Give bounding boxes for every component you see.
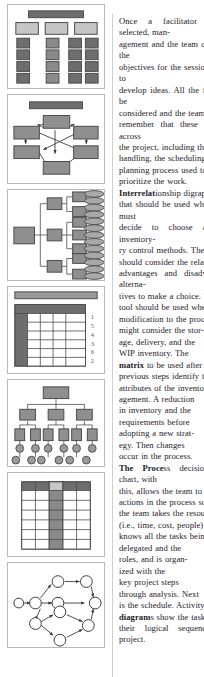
- body-text-line: in inventory and the: [119, 405, 204, 416]
- body-text-line: age, delivery, and the: [119, 337, 204, 348]
- body-text-line: egy. Then changes: [119, 440, 204, 451]
- body-text-line: the project, including the material: [119, 142, 204, 153]
- body-text-line: roles, and is organ-: [119, 554, 204, 565]
- work-breakdown-structure-canvas: [8, 380, 104, 466]
- organization-chart-grid-canvas: [8, 5, 104, 88]
- body-text-line: agement and the team can establish the: [119, 39, 204, 62]
- body-text-line: should consider the relative: [119, 257, 204, 268]
- body-text-line: agement. A reduction: [119, 394, 204, 405]
- figure-panel-tree-breakdown-diagram: [7, 189, 105, 281]
- body-text-line: this, allows the team to plan the: [119, 486, 204, 497]
- body-text-line: handling, the scheduling, and the: [119, 153, 204, 164]
- body-text-line: ized with the: [119, 566, 204, 577]
- body-text-term: matrix: [119, 360, 144, 370]
- figure-strip: 1 5 4 3 6 2: [0, 0, 110, 677]
- body-text-line: key project steps: [119, 577, 204, 588]
- figure-panel-responsibility-matrix: [7, 472, 105, 557]
- body-text-line: their logical sequence in the project.: [119, 623, 204, 646]
- body-text-line: considered and the team needs to: [119, 108, 204, 119]
- body-text-line: objectives for the session and begin to: [119, 62, 204, 85]
- body-text-line: decide to choose among the inventory-: [119, 222, 204, 245]
- body-text-line: ry control methods. The team: [119, 245, 204, 256]
- body-text-line: might consider the stor-: [119, 325, 204, 336]
- body-text-line: Interrelationship digraphs are tools: [119, 188, 204, 199]
- rank-value: 4: [91, 331, 95, 338]
- body-text-line: through analysis. Next: [119, 589, 204, 600]
- body-text-line: tives to make a choice. The: [119, 291, 204, 302]
- body-text-line: advantages and disadvantages of alterna-: [119, 268, 204, 291]
- rank-value: 5: [91, 322, 94, 329]
- body-text-line: actions in the process so that: [119, 497, 204, 508]
- body-text-line: WIP inventory. The: [119, 348, 204, 359]
- body-text-line: is the schedule. Activity network: [119, 600, 204, 611]
- tree-breakdown-diagram-canvas: [8, 190, 104, 280]
- body-text-line: the team takes the resources: [119, 508, 204, 519]
- body-text-line: Once a facilitator has been selected, ma…: [119, 16, 204, 39]
- body-text-term: diagram: [119, 612, 150, 622]
- rank-value: 3: [91, 340, 94, 347]
- body-text-line: modification to the process: [119, 314, 204, 325]
- rank-value: 2: [91, 357, 94, 364]
- rank-value: 6: [91, 348, 95, 355]
- figure-panel-activity-network-diagram: [7, 562, 105, 648]
- body-text-line: requirements before: [119, 417, 204, 428]
- prioritization-matrix-canvas: 1 5 4 3 6 2: [8, 287, 104, 373]
- body-text-line: remember that these tools apply across: [119, 119, 204, 142]
- body-text-line: attributes of the inventory man-: [119, 383, 204, 394]
- body-text-term: The Proce: [119, 463, 164, 473]
- figure-panel-work-breakdown-structure: [7, 379, 105, 467]
- body-text-line: adopting a new strat-: [119, 428, 204, 439]
- book-page: 1 5 4 3 6 2: [0, 0, 204, 677]
- body-text-line: develop ideas. All the factors must be: [119, 85, 204, 108]
- body-text-line: prioritize the work.: [119, 176, 204, 187]
- responsibility-matrix-canvas: [8, 473, 104, 556]
- figure-panel-organization-chart-grid: [7, 4, 105, 89]
- body-text-line: delegated and the: [119, 543, 204, 554]
- column-divider-rule: [112, 14, 113, 677]
- body-text-term: Interrelat: [119, 188, 155, 198]
- body-text-line: tool should be used when a: [119, 302, 204, 313]
- activity-network-diagram-canvas: [8, 563, 104, 647]
- prioritization-matrix-rank-labels: 1 5 4 3 6 2: [91, 313, 95, 364]
- figure-panel-prioritization-matrix: 1 5 4 3 6 2: [7, 286, 105, 374]
- body-text-line: diagrams show the tasks and: [119, 612, 204, 623]
- body-text-line: matrix to be used after the: [119, 360, 204, 371]
- body-text-line: occur in the process.: [119, 451, 204, 462]
- body-text-line: (i.e., time, cost, people) and: [119, 520, 204, 531]
- interrelationship-digraph-canvas: [8, 95, 104, 183]
- body-text: Once a facilitator has been selected, ma…: [119, 16, 204, 646]
- body-text-line: The Process decision program chart, with: [119, 463, 204, 486]
- body-text-column: Once a facilitator has been selected, ma…: [110, 0, 204, 677]
- body-text-line: previous steps identify the: [119, 371, 204, 382]
- body-text-line: knows all the tasks being: [119, 531, 204, 542]
- rank-value: 1: [91, 313, 94, 320]
- figure-panel-interrelationship-digraph: [7, 94, 105, 184]
- body-text-line: that should be used when the team must: [119, 199, 204, 222]
- body-text-line: planning process used to: [119, 165, 204, 176]
